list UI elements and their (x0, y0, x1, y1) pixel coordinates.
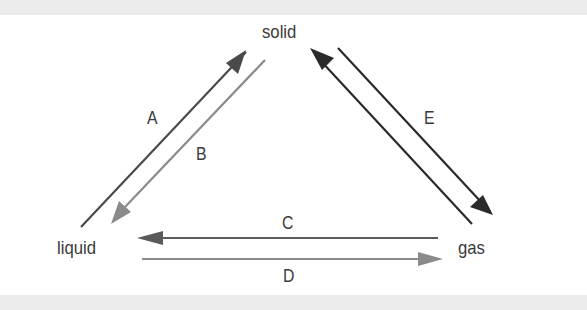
arrow-b (111, 60, 265, 224)
node-liquid: liquid (57, 238, 96, 257)
edge-label-d: D (283, 267, 294, 285)
edge-label-c: C (282, 214, 293, 232)
arrow-e (338, 48, 493, 215)
arrow-gas-to-solid (310, 48, 472, 224)
phase-diagram-arrows (0, 0, 587, 310)
arrow-a (81, 50, 246, 227)
edge-label-e: E (424, 109, 435, 127)
arrow-c (137, 231, 438, 245)
edge-label-b: B (196, 145, 207, 163)
edge-label-a: A (147, 109, 158, 127)
arrow-d (142, 252, 443, 266)
node-gas: gas (458, 238, 485, 257)
node-solid: solid (262, 22, 296, 41)
